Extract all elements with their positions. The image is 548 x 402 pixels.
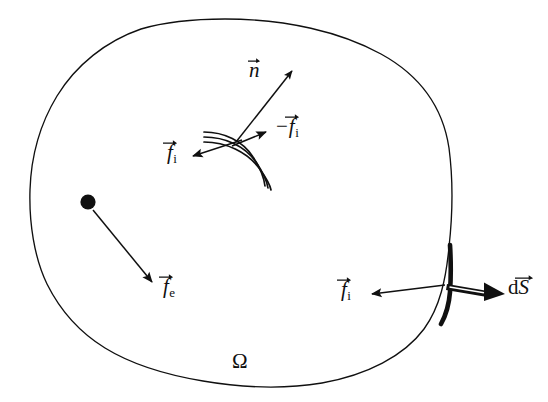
internal-force-symbol: f (167, 142, 173, 163)
external-force-symbol: f (163, 276, 169, 297)
minus-sign: − (276, 114, 288, 138)
surface-element-symbol: S (519, 277, 530, 298)
boundary-force-subscript: i (347, 288, 351, 303)
internal-force-symbol: f (289, 116, 295, 137)
internal-force-reaction-arrow (232, 132, 266, 146)
differential-d: d (508, 275, 519, 299)
mechanics-diagram: n − fi fi (0, 0, 548, 402)
label-external-force: fe (163, 276, 175, 299)
normal-vector-symbol: n (249, 60, 260, 81)
external-force-subscript: e (169, 285, 175, 300)
boundary-force-arrow (372, 285, 445, 294)
surface-element-arrow (446, 283, 505, 302)
external-force-arrow (93, 210, 152, 282)
domain-label: Ω (232, 351, 248, 372)
boundary-force-symbol: f (341, 279, 347, 300)
label-normal-vector: n (249, 60, 260, 81)
diagram-canvas (0, 0, 548, 402)
material-point-dot (80, 194, 95, 209)
label-internal-force-action: fi (167, 142, 177, 165)
label-boundary-force: fi (341, 279, 351, 302)
label-surface-element: d S (508, 277, 529, 298)
label-internal-force-reaction: − fi (276, 116, 299, 139)
internal-force-subscript: i (173, 151, 177, 166)
internal-force-subscript: i (295, 125, 299, 140)
